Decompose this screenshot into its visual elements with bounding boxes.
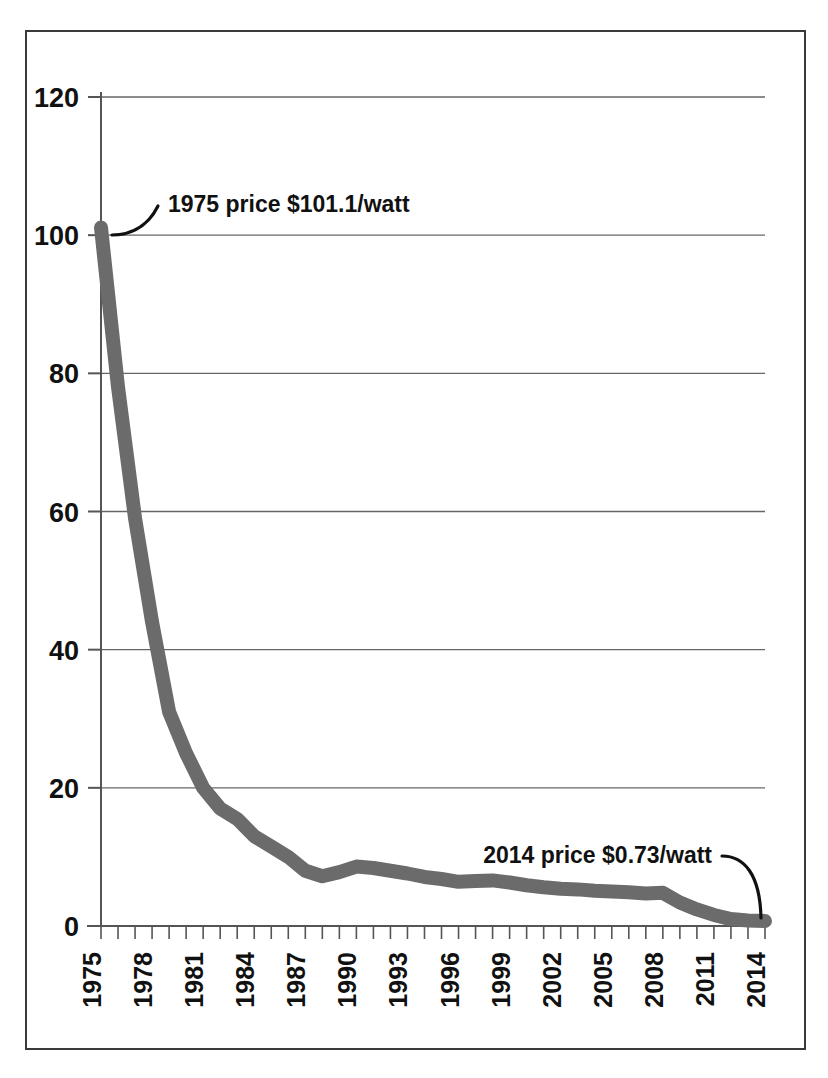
y-axis-label-100: 100 [34, 221, 79, 251]
chart-page: 0204060801001201975197819811984198719901… [0, 0, 828, 1078]
y-axis-label-40: 40 [49, 636, 79, 666]
x-axis-label-2011: 2011 [691, 952, 719, 1006]
x-axis-label-1975: 1975 [78, 952, 106, 1008]
annotation-end-label: 2014 price $0.73/watt [483, 842, 712, 868]
x-axis-label-1990: 1990 [333, 952, 361, 1008]
x-axis-label-1987: 1987 [282, 952, 310, 1008]
x-axis-label-1999: 1999 [487, 952, 515, 1008]
y-axis-label-120: 120 [34, 83, 79, 113]
x-axis-label-1993: 1993 [384, 952, 412, 1008]
x-axis-label-1981: 1981 [180, 952, 208, 1008]
x-axis-label-1996: 1996 [436, 952, 464, 1008]
x-axis-label-2005: 2005 [589, 952, 617, 1008]
x-axis-label-1984: 1984 [231, 952, 259, 1008]
x-axis-label-2014: 2014 [742, 952, 770, 1008]
y-axis-label-80: 80 [49, 359, 79, 389]
annotation-end-leader [722, 856, 761, 918]
data-series-line [101, 228, 765, 921]
annotation-start-leader [112, 206, 158, 235]
y-axis-label-60: 60 [49, 498, 79, 528]
annotation-start-label: 1975 price $101.1/watt [168, 191, 410, 217]
x-axis-label-2008: 2008 [640, 952, 668, 1008]
line-chart: 0204060801001201975197819811984198719901… [0, 0, 828, 1078]
y-axis-label-20: 20 [49, 774, 79, 804]
x-axis-label-1978: 1978 [129, 952, 157, 1008]
y-axis-label-0: 0 [64, 912, 79, 942]
x-axis-label-2002: 2002 [538, 952, 566, 1008]
